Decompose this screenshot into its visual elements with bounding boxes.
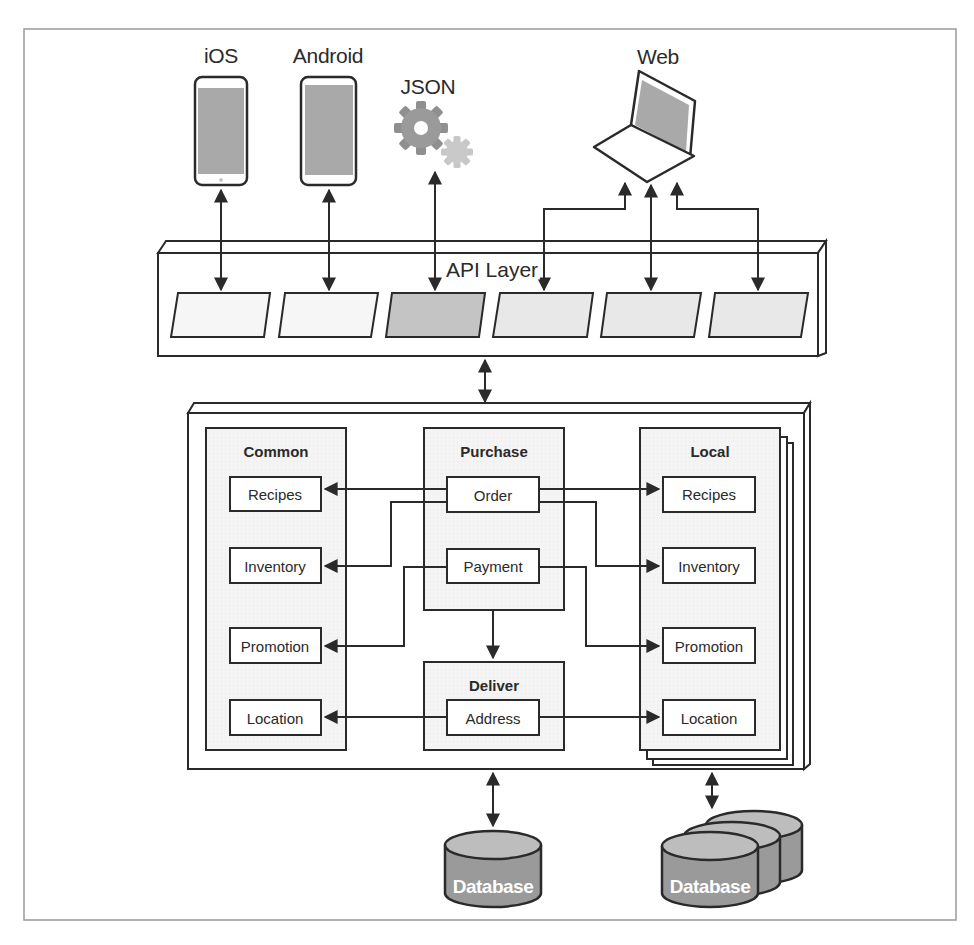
local-item-inventory: Inventory — [678, 559, 740, 574]
database-shared-label: Database — [453, 877, 534, 896]
api-slot-1 — [171, 293, 270, 337]
local-item-location: Location — [681, 711, 738, 726]
android-phone-icon — [301, 77, 356, 185]
deliver-item-address: Address — [465, 711, 520, 726]
architecture-diagram — [0, 0, 974, 945]
api-layer-label: API Layer — [444, 259, 540, 280]
gears-icon — [394, 101, 473, 168]
purchase-item-payment: Payment — [463, 559, 522, 574]
local-item-recipes: Recipes — [682, 487, 736, 502]
client-label-web: Web — [637, 46, 679, 67]
common-title: Common — [244, 444, 309, 459]
client-label-ios: iOS — [204, 45, 238, 66]
purchase-title: Purchase — [460, 444, 528, 459]
local-title: Local — [690, 444, 729, 459]
purchase-item-order: Order — [474, 488, 512, 503]
api-slot-6 — [709, 293, 808, 337]
local-item-promotion: Promotion — [675, 639, 743, 654]
api-slot-5 — [601, 293, 701, 337]
common-item-recipes: Recipes — [248, 487, 302, 502]
client-label-android: Android — [293, 45, 363, 66]
common-item-inventory: Inventory — [244, 559, 306, 574]
deliver-title: Deliver — [469, 678, 519, 693]
ios-phone-icon — [195, 77, 247, 185]
api-slot-3 — [386, 293, 485, 337]
api-slot-4 — [493, 293, 593, 337]
laptop-icon — [594, 71, 695, 182]
common-item-location: Location — [247, 711, 304, 726]
database-local-label: Database — [670, 877, 751, 896]
api-slot-2 — [279, 293, 378, 337]
common-item-promotion: Promotion — [241, 639, 309, 654]
client-label-json: JSON — [401, 76, 456, 97]
